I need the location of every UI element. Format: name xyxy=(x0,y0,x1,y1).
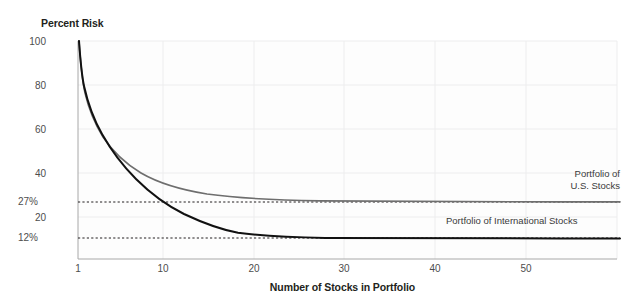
y-tick-label-20: 20 xyxy=(0,212,46,223)
series-label-international-stocks: Portfolio of International Stocks xyxy=(446,215,578,227)
chart-plot-canvas xyxy=(0,0,637,307)
x-tick-label-30: 30 xyxy=(324,263,364,274)
y-tick-label-60: 60 xyxy=(0,124,46,135)
x-tick-label-40: 40 xyxy=(415,263,455,274)
x-tick-label-50: 50 xyxy=(506,263,546,274)
y-tick-label-40: 40 xyxy=(0,168,46,179)
reference-label-27-percent: 27% xyxy=(0,196,38,207)
series-label-us-stocks: Portfolio of U.S. Stocks xyxy=(420,168,620,192)
series-label-us-stocks-line1: Portfolio of xyxy=(420,168,620,180)
y-axis-title: Percent Risk xyxy=(41,17,103,29)
risk-diversification-chart: Percent Risk 100 80 60 40 20 27% 12% 1 1… xyxy=(0,0,637,307)
y-tick-label-100: 100 xyxy=(0,36,46,47)
x-axis-title: Number of Stocks in Portfolio xyxy=(0,281,637,293)
reference-label-12-percent: 12% xyxy=(0,232,38,243)
x-tick-label-20: 20 xyxy=(234,263,274,274)
x-tick-label-10: 10 xyxy=(143,263,183,274)
x-tick-label-1: 1 xyxy=(58,263,98,274)
y-tick-label-80: 80 xyxy=(0,80,46,91)
series-label-us-stocks-line2: U.S. Stocks xyxy=(420,180,620,192)
